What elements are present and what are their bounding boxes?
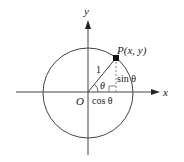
x-axis-label: x — [162, 86, 168, 98]
right-angle-marker — [109, 86, 116, 92]
angle-arc — [95, 84, 99, 92]
y-axis-arrow-icon — [85, 20, 91, 29]
unit-circle-diagram: x y P(x, y) 1 θ sin θ cos θ O — [0, 0, 184, 162]
y-axis-label: y — [83, 5, 89, 17]
radius-label: 1 — [96, 64, 101, 75]
x-axis-arrow-icon — [151, 89, 160, 95]
point-p-label: P(x, y) — [116, 44, 147, 57]
cos-label: cos θ — [92, 95, 113, 106]
angle-label: θ — [100, 80, 105, 91]
sin-label: sin θ — [117, 73, 136, 84]
origin-label: O — [76, 95, 84, 107]
